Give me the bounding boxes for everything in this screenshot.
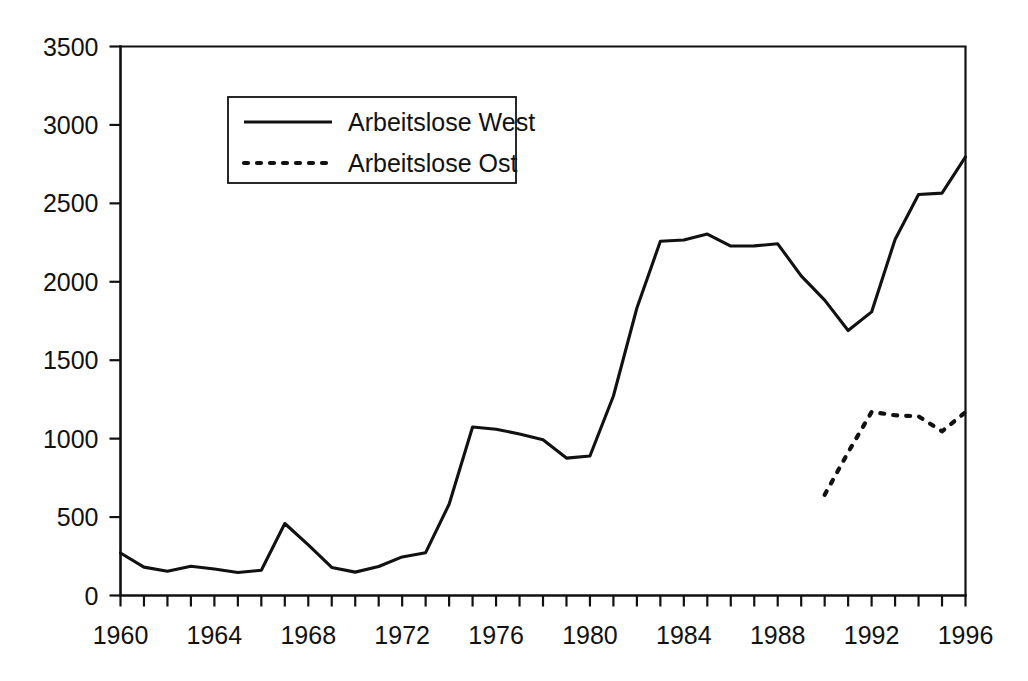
line-chart: 0500100015002000250030003500 19601964196… bbox=[0, 0, 1028, 681]
x-tick-label: 1984 bbox=[656, 621, 712, 649]
x-tick-label: 1988 bbox=[750, 621, 806, 649]
x-tick-label: 1980 bbox=[562, 621, 618, 649]
x-axis-tick-marks bbox=[121, 596, 966, 607]
x-tick-label: 1996 bbox=[938, 621, 994, 649]
legend-label-ost: Arbeitslose Ost bbox=[348, 149, 518, 177]
y-tick-label: 2000 bbox=[43, 268, 99, 296]
y-axis-tick-marks bbox=[110, 47, 121, 596]
x-axis-tick-labels: 1960196419681972197619801984198819921996 bbox=[93, 621, 994, 649]
x-tick-label: 1976 bbox=[468, 621, 524, 649]
y-tick-label: 0 bbox=[85, 582, 99, 610]
y-tick-label: 3000 bbox=[43, 111, 99, 139]
y-tick-label: 3500 bbox=[43, 33, 99, 61]
series-line-west bbox=[121, 157, 966, 573]
series-line-ost bbox=[825, 412, 966, 495]
x-tick-label: 1992 bbox=[844, 621, 900, 649]
y-axis-tick-labels: 0500100015002000250030003500 bbox=[43, 33, 99, 610]
data-series-group bbox=[121, 157, 966, 573]
x-tick-label: 1960 bbox=[93, 621, 149, 649]
y-tick-label: 500 bbox=[57, 503, 99, 531]
x-tick-label: 1968 bbox=[280, 621, 336, 649]
y-tick-label: 1000 bbox=[43, 425, 99, 453]
y-tick-label: 1500 bbox=[43, 346, 99, 374]
x-tick-label: 1964 bbox=[187, 621, 243, 649]
chart-legend: Arbeitslose WestArbeitslose Ost bbox=[228, 97, 535, 183]
x-tick-label: 1972 bbox=[374, 621, 430, 649]
chart-container: 0500100015002000250030003500 19601964196… bbox=[0, 0, 1028, 681]
y-tick-label: 2500 bbox=[43, 189, 99, 217]
legend-label-west: Arbeitslose West bbox=[348, 108, 535, 136]
